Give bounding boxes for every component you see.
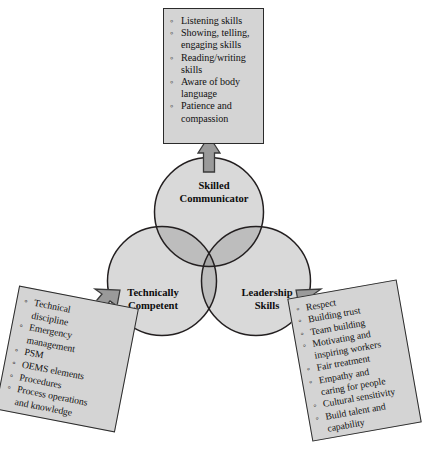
callout-box-technically-competent: Technical discipline Emergency managemen… bbox=[0, 286, 139, 433]
list-item: Aware of body language bbox=[170, 76, 258, 100]
callout-list-right: Respect Building trust Team building Mot… bbox=[295, 286, 416, 436]
callout-box-skilled-communicator: Listening skills Showing, telling, engag… bbox=[163, 8, 264, 144]
list-item: Showing, telling, engaging skills bbox=[170, 27, 258, 51]
list-item: Patience and compassion bbox=[170, 100, 258, 124]
list-item: Reading/writing skills bbox=[170, 52, 258, 76]
callout-list-left: Technical discipline Emergency managemen… bbox=[4, 295, 133, 427]
callout-list-top: Listening skills Showing, telling, engag… bbox=[170, 15, 258, 125]
list-item: Listening skills bbox=[170, 15, 258, 27]
